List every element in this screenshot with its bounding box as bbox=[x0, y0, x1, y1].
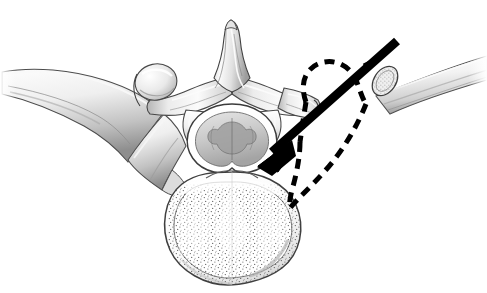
rib-left-edge-fade bbox=[0, 60, 16, 104]
rib-right-edge-fade bbox=[468, 50, 487, 86]
anatomy-illustration-canvas bbox=[0, 0, 487, 293]
anatomical-figure: Axial view of thoracic vertebra with cos… bbox=[0, 0, 487, 293]
